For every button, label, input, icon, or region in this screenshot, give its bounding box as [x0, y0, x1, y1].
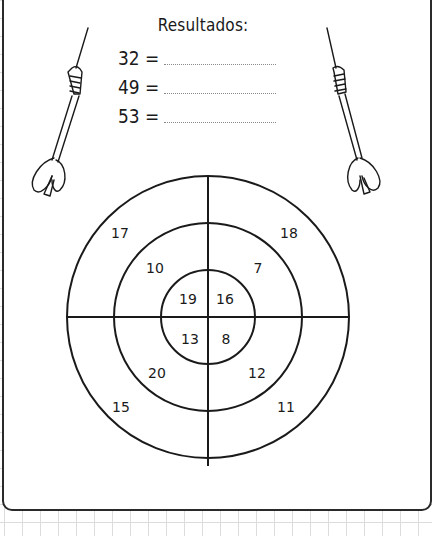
- score-outer-bottom-right[interactable]: 11: [277, 399, 295, 415]
- score-inner-bottom-right[interactable]: 8: [222, 331, 231, 347]
- score-outer-top-right[interactable]: 18: [280, 225, 298, 241]
- dartboard: [67, 176, 349, 466]
- score-outer-top-left[interactable]: 17: [111, 225, 129, 241]
- score-middle-bottom-left[interactable]: 20: [148, 365, 166, 381]
- dart-left-icon: [32, 28, 88, 196]
- score-middle-top-right[interactable]: 7: [254, 260, 263, 276]
- score-middle-top-left[interactable]: 10: [146, 260, 164, 276]
- score-outer-bottom-left[interactable]: 15: [112, 399, 130, 415]
- score-middle-bottom-right[interactable]: 12: [248, 365, 266, 381]
- score-inner-top-right[interactable]: 16: [216, 291, 234, 307]
- score-inner-bottom-left[interactable]: 13: [181, 331, 199, 347]
- score-inner-top-left[interactable]: 19: [179, 291, 197, 307]
- dart-right-icon: [327, 28, 380, 194]
